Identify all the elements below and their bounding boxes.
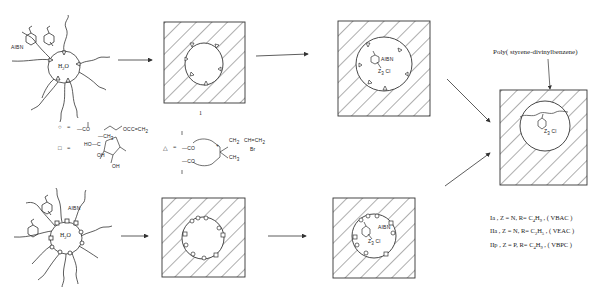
legend-triangle-plus: +	[216, 142, 219, 148]
legend-circle-co: —CO	[77, 126, 90, 132]
top-step1-particle	[164, 22, 245, 103]
legend-triangle-ch2: CH2	[229, 137, 239, 145]
legend-triangle-co2: —CO	[182, 158, 195, 164]
final-sub: 3	[547, 131, 550, 136]
bottom-step1-particle	[162, 198, 245, 277]
legend-square-symbol: □	[58, 145, 62, 151]
series-r: R= C	[519, 214, 533, 221]
tri-vinyl-text: CH=CH	[244, 137, 262, 143]
arrow-top-to-final	[447, 79, 490, 122]
legend-square-eq: =	[67, 145, 70, 151]
polymer-matrix-label: Poly( styrene-divinylbenzene)	[493, 48, 578, 56]
series-r-sub2: 5	[542, 232, 544, 237]
compound-number-1: 1	[199, 110, 202, 116]
top-step2-salt: Z3 Cl	[378, 68, 391, 76]
bottom-aibn-label: AIBN	[68, 205, 80, 211]
bottom-step2-salt: Z3 Cl	[368, 238, 381, 246]
series-r-sub2: 9	[540, 245, 542, 250]
tri-ch2-sub: 2	[237, 140, 240, 145]
legend-square-ch3: —CH3	[98, 133, 114, 141]
tri-ch2-text: CH	[229, 137, 237, 143]
legend-structures	[88, 122, 228, 174]
tri-ch3-text: CH	[229, 154, 237, 160]
legend-triangle-vinyl: CH=CH2	[244, 137, 265, 145]
sq-ch3-sub: 3	[111, 136, 114, 141]
series-code: ( VEAC )	[549, 227, 574, 234]
bottom-step2-aibn: AIBN	[378, 224, 390, 230]
tri-vinyl-sub: 2	[262, 140, 265, 145]
arrow-top-2	[256, 54, 308, 56]
series-z: Z = P	[502, 241, 516, 248]
legend-triangle-eq: =	[173, 144, 176, 150]
series-id: IIp ,	[490, 241, 501, 248]
series-row: IIa , Z = N, R= C2H5 , ( VEAC )	[490, 226, 574, 239]
series-z: Z = N	[502, 227, 518, 234]
series-code: ( VBPC )	[548, 241, 572, 248]
series-z: Z = N	[500, 214, 516, 221]
circle-tail-sub: 2	[145, 129, 148, 134]
series-id: IIa ,	[490, 227, 500, 234]
legend-triangle-co1: —CO	[182, 145, 195, 151]
salt-cl: Cl	[376, 238, 381, 244]
salt-cl: Cl	[386, 68, 391, 74]
circle-tail-text: OCC=CH	[123, 126, 145, 132]
monomer-series-list: Ia , Z = N, R= C4H9 , ( VBAC ) IIa , Z =…	[490, 213, 574, 253]
salt-sub: 3	[371, 241, 374, 246]
tri-ch3-sub: 3	[237, 157, 240, 162]
arrow-bottom-to-final	[445, 153, 490, 186]
water-o: O	[65, 63, 69, 69]
series-row: Ia , Z = N, R= C4H9 , ( VBAC )	[490, 213, 574, 226]
water-o: O	[67, 232, 71, 238]
final-salt: Z3 Cl	[544, 128, 557, 136]
final-particle	[500, 59, 587, 185]
legend-square-oh2: OH	[112, 163, 120, 169]
legend-triangle-br: Br	[250, 146, 255, 152]
legend-triangle-ch3: CH3	[229, 154, 239, 162]
final-cl: Cl	[552, 128, 557, 134]
salt-sub: 3	[381, 71, 384, 76]
top-aibn-label: AIBN	[11, 44, 23, 50]
series-r-sub2: 9	[540, 218, 542, 223]
top-water-label: H2O	[58, 63, 69, 71]
series-row: IIp , Z = P, R= C4H9 , ( VBPC )	[490, 240, 574, 253]
series-r: R= C	[521, 227, 535, 234]
legend-circle-eq: =	[67, 124, 70, 130]
series-r: R= C	[520, 241, 534, 248]
legend-square-ho: HO—C	[84, 141, 101, 147]
sq-ch3-text: —CH	[98, 133, 111, 139]
series-id: Ia ,	[490, 214, 498, 221]
legend-square-oh1: OH	[97, 152, 105, 158]
legend-triangle-symbol: △	[163, 144, 168, 151]
bottom-water-label: H2O	[60, 232, 71, 240]
top-step2-aibn: AIBN	[381, 56, 393, 62]
series-code: ( VBAC )	[547, 214, 573, 221]
legend-circle-symbol: ○	[58, 124, 62, 130]
legend-circle-tail: OCC=CH2	[123, 126, 148, 134]
